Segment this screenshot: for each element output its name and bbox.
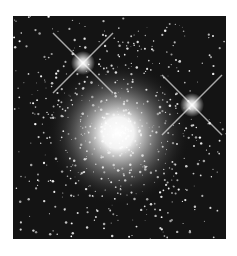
cluster-photo [13,16,226,239]
cluster-core [46,61,190,205]
star-field [13,16,226,239]
